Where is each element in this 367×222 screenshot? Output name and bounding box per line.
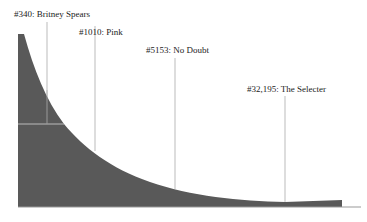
long-tail-area — [18, 34, 342, 207]
label-nodoubt: #5153: No Doubt — [146, 45, 209, 55]
label-selecter: #32,195: The Selecter — [247, 84, 326, 94]
label-pink: #1010: Pink — [79, 27, 123, 37]
long-tail-chart: #340: Britney Spears #1010: Pink #5153: … — [0, 0, 367, 222]
label-britney: #340: Britney Spears — [14, 9, 90, 19]
